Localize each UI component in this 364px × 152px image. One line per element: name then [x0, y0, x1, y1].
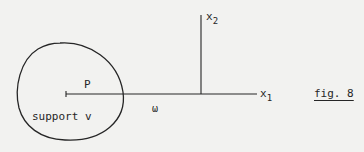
figure-canvas: P ω support v x2 x1 fig. 8 — [0, 0, 364, 152]
support-v-label: support v — [32, 111, 92, 122]
x1-base: x — [260, 87, 267, 100]
x1-subscript: 1 — [267, 93, 272, 103]
point-p-label: P — [84, 79, 91, 90]
x2-base: x — [206, 10, 213, 23]
figure-caption: fig. 8 — [314, 88, 354, 99]
omega-label: ω — [152, 104, 158, 114]
x2-subscript: 2 — [213, 16, 218, 26]
diagram-graphics — [0, 0, 364, 152]
x2-axis-label: x2 — [206, 11, 218, 22]
x1-axis-label: x1 — [260, 88, 272, 99]
support-circle — [17, 43, 123, 140]
